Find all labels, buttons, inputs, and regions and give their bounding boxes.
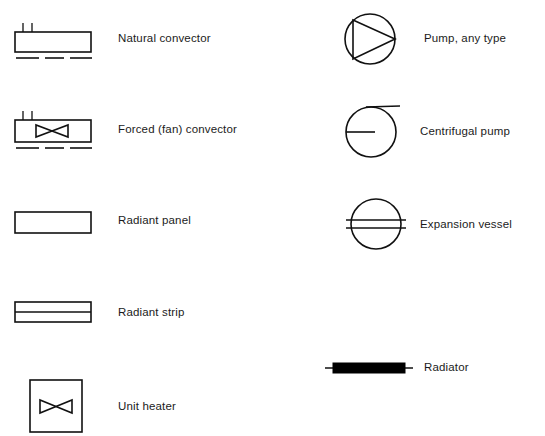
- legend-label-pump: Pump, any type: [424, 33, 506, 45]
- radiator-icon: [325, 360, 421, 376]
- legend-label-forced-convector: Forced (fan) convector: [118, 124, 237, 136]
- expansion-vessel-icon: [344, 196, 416, 252]
- legend-label-expansion-vessel: Expansion vessel: [420, 219, 512, 231]
- legend-label-natural-convector: Natural convector: [118, 33, 211, 45]
- natural-convector-icon: [14, 22, 114, 64]
- legend-label-radiant-panel: Radiant panel: [118, 215, 191, 227]
- unit-heater-icon: [29, 379, 89, 436]
- legend-label-unit-heater: Unit heater: [118, 401, 176, 413]
- symbols-legend-sheet: Natural convector Forced (fan) convector…: [0, 0, 545, 436]
- pump-icon: [343, 12, 403, 68]
- legend-label-centrifugal-pump: Centrifugal pump: [420, 126, 510, 138]
- legend-label-radiant-strip: Radiant strip: [118, 307, 185, 319]
- forced-convector-icon: [14, 110, 114, 154]
- radiant-strip-icon: [14, 301, 104, 327]
- radiant-panel-icon: [14, 211, 104, 237]
- centrifugal-pump-icon: [344, 104, 410, 160]
- legend-label-radiator: Radiator: [424, 362, 469, 374]
